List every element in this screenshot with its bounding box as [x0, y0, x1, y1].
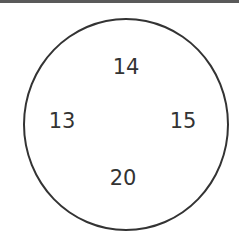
top-border	[0, 0, 239, 3]
number-left: 13	[49, 111, 76, 132]
number-right: 15	[170, 111, 197, 132]
number-top: 14	[113, 57, 140, 78]
number-bottom: 20	[110, 168, 137, 189]
